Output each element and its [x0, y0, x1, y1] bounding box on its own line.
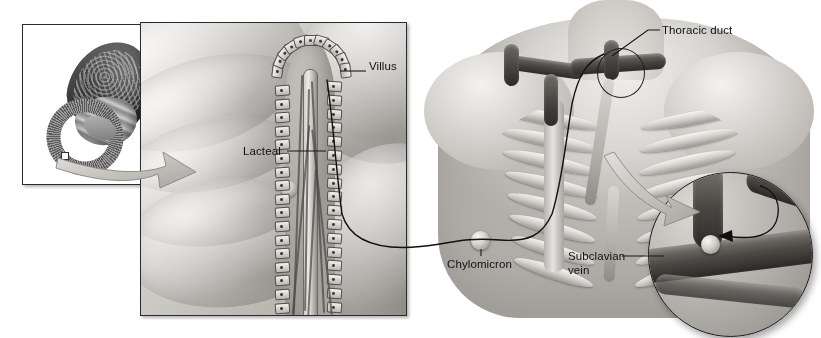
epithelial-cell: [275, 288, 291, 300]
epithelial-cell: [327, 315, 343, 316]
epithelial-cell: [275, 234, 291, 246]
epithelial-cell: [275, 180, 291, 192]
villus-structure: [259, 29, 357, 316]
label-thoracic-duct: Thoracic duct: [662, 24, 732, 37]
label-villus: Villus: [369, 60, 397, 73]
epithelial-cell: [327, 94, 343, 106]
epithelial-cell: [275, 248, 291, 260]
epithelial-cell: [275, 84, 291, 96]
magnified-junction-inset: [648, 172, 813, 337]
epithelial-cell: [275, 98, 291, 110]
epithelial-cell: [327, 205, 343, 217]
chylomicron-particle: [471, 231, 490, 250]
epithelial-cell: [327, 218, 343, 230]
jugular-vein-left: [504, 44, 519, 86]
superior-vena-cava: [544, 74, 558, 126]
epithelial-cell: [275, 193, 291, 205]
epithelial-cell: [327, 246, 343, 258]
magnify-region-circle: [597, 48, 645, 98]
villus-panel: [140, 22, 407, 316]
epithelial-cell: [275, 112, 291, 124]
epithelial-cell: [327, 149, 343, 161]
label-subclavian-vein-line2: vein: [568, 264, 590, 277]
label-subclavian-vein-line1: Subclavian: [568, 250, 625, 263]
accessory-vessel-magnified: [654, 273, 805, 309]
epithelial-cell: [327, 260, 343, 272]
epithelial-cell: [327, 136, 343, 148]
epithelial-cell: [327, 163, 343, 175]
label-lacteal: Lacteal: [243, 145, 281, 158]
epithelial-cell: [327, 177, 343, 189]
epithelial-cell: [275, 275, 291, 287]
epithelial-cell: [327, 191, 343, 203]
chylomicron-entering-vein: [701, 235, 720, 254]
sample-site-marker: [61, 152, 69, 160]
epithelial-cell: [275, 220, 291, 232]
sternum: [544, 100, 564, 272]
epithelial-cell: [327, 80, 343, 92]
epithelial-cell: [327, 108, 343, 120]
epithelial-cell: [275, 125, 291, 137]
epithelial-cell: [327, 232, 343, 244]
illustration-figure: Villus Lacteal Thoracic duct Chylomicron…: [0, 0, 821, 338]
epithelial-cell: [275, 302, 291, 314]
epithelial-cell: [327, 122, 343, 134]
epithelial-cell: [275, 207, 291, 219]
label-chylomicron: Chylomicron: [447, 258, 512, 271]
epithelial-cell: [275, 166, 291, 178]
epithelial-cell: [339, 62, 352, 78]
epithelial-cell: [275, 261, 291, 273]
